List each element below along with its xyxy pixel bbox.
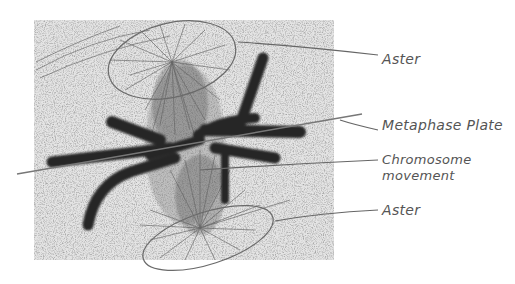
label-metaphase-plate: Metaphase Plate <box>382 118 503 133</box>
label-chromosome-movement-line2: movement <box>382 168 455 183</box>
label-chromosome-movement-line1: Chromosome <box>382 152 472 167</box>
label-aster-top: Aster <box>382 52 420 67</box>
leader-metaphase-plate <box>340 120 378 130</box>
micrograph <box>34 20 334 260</box>
label-aster-bottom: Aster <box>382 203 420 218</box>
metaphase-figure <box>0 0 515 284</box>
